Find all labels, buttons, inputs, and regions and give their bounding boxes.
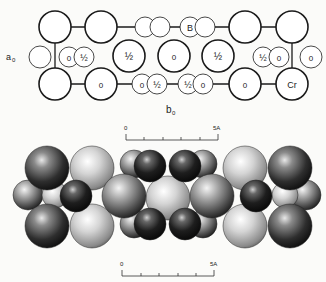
crystal-structure-figure: B 0 ½ ½ 0 ½ ½ 0 0 0 0 ½ ½ 0 0 Cr a 0 b 0… (0, 0, 326, 282)
sphere (60, 180, 92, 212)
height-label: ½ (125, 51, 134, 62)
scale-bar-top (126, 134, 218, 140)
large-atom (276, 11, 308, 43)
scale-bar-bottom-end: 5A (210, 261, 217, 267)
height-label: 0 (172, 53, 177, 62)
height-label: 0 (201, 81, 206, 90)
height-label: 0 (277, 54, 282, 63)
axis-a-label: a (6, 52, 11, 62)
sphere (190, 174, 234, 218)
scale-bar-top-start: 0 (124, 125, 128, 131)
height-label: 0 (309, 54, 314, 63)
height-label: 0 (140, 81, 145, 90)
small-atom (195, 17, 215, 37)
sphere (25, 146, 69, 190)
height-label: ½ (153, 80, 161, 90)
sphere (25, 204, 69, 248)
sphere (102, 174, 146, 218)
axis-a-subscript: 0 (12, 57, 16, 63)
chromium-label: Cr (287, 80, 297, 90)
boron-label: B (187, 23, 193, 33)
sphere (268, 146, 312, 190)
sphere (169, 150, 201, 182)
sphere (134, 208, 166, 240)
large-atom (39, 11, 71, 43)
height-label: 0 (243, 81, 248, 90)
height-label: ½ (80, 53, 88, 63)
large-atom (39, 68, 71, 100)
small-atom (150, 17, 170, 37)
small-atom (29, 46, 51, 68)
sphere (169, 208, 201, 240)
height-label: 0 (99, 81, 104, 90)
height-label: ½ (214, 51, 223, 62)
large-atom (229, 11, 261, 43)
scale-bar-bottom-start: 0 (120, 261, 124, 267)
sphere (268, 204, 312, 248)
axis-b-subscript: 0 (172, 110, 176, 116)
large-atom (85, 11, 117, 43)
scale-bar-top-end: 5A (213, 125, 220, 131)
space-filling-model (13, 146, 321, 248)
height-label: ½ (184, 80, 192, 90)
sphere (134, 150, 166, 182)
height-label: 0 (67, 54, 72, 63)
height-label: ½ (259, 53, 267, 63)
scale-bar-bottom (122, 270, 214, 276)
sphere (240, 180, 272, 212)
